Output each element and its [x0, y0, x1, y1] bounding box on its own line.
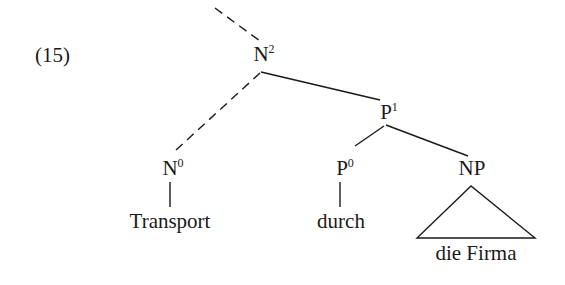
node-np-label: NP — [459, 156, 486, 180]
leaf-die-firma: die Firma — [435, 243, 516, 264]
edge-above-n2 — [215, 8, 260, 41]
edge-n2-p1 — [261, 72, 380, 100]
node-p0-label: P — [336, 156, 348, 180]
node-n0: N0 — [162, 158, 183, 179]
node-n0-label: N — [162, 156, 177, 180]
edge-p1-np — [386, 125, 468, 156]
example-number: (15) — [35, 45, 70, 66]
node-p0: P0 — [336, 158, 354, 179]
node-p1-label: P — [380, 100, 392, 124]
node-n0-sup: 0 — [178, 156, 184, 170]
node-p1-sup: 1 — [392, 100, 398, 114]
node-p1: P1 — [380, 102, 398, 123]
node-n2-label: N — [253, 42, 268, 66]
leaf-transport: Transport — [130, 211, 211, 232]
leaf-durch: durch — [317, 211, 365, 232]
edge-n2-n0 — [176, 73, 260, 150]
edge-p1-p0 — [355, 126, 384, 146]
np-triangle — [417, 186, 535, 238]
node-np: NP — [459, 158, 486, 179]
node-n2-sup: 2 — [269, 42, 275, 56]
node-n2: N2 — [253, 44, 274, 65]
node-p0-sup: 0 — [348, 156, 354, 170]
